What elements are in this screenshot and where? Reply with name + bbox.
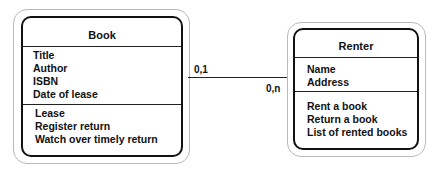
renter-class: Renter Name Address Rent a book Return a… — [293, 28, 419, 150]
renter-operations: Rent a book Return a book List of rented… — [307, 100, 407, 139]
association-line — [188, 77, 287, 78]
renter-attribute: Address — [307, 76, 349, 89]
book-operations: Lease Register return Watch over timely … — [35, 107, 158, 146]
renter-header-divider — [295, 57, 417, 58]
renter-operation: List of rented books — [307, 126, 407, 139]
renter-attributes: Name Address — [307, 63, 349, 89]
book-attribute: Date of lease — [33, 88, 98, 101]
book-class-name: Book — [23, 29, 181, 41]
book-class: Book Title Author ISBN Date of lease Lea… — [21, 16, 183, 157]
renter-operation: Return a book — [307, 113, 407, 126]
renter-attributes-divider — [295, 91, 417, 92]
renter-operation: Rent a book — [307, 100, 407, 113]
book-attribute: Title — [33, 49, 98, 62]
book-multiplicity: 0,1 — [194, 64, 208, 75]
book-attribute: ISBN — [33, 75, 98, 88]
renter-multiplicity: 0,n — [266, 83, 280, 94]
book-operation: Register return — [35, 120, 158, 133]
book-operation: Watch over timely return — [35, 133, 158, 146]
renter-class-name: Renter — [295, 40, 417, 52]
book-attributes: Title Author ISBN Date of lease — [33, 49, 98, 101]
renter-attribute: Name — [307, 63, 349, 76]
book-operation: Lease — [35, 107, 158, 120]
book-attributes-divider — [23, 104, 181, 105]
book-attribute: Author — [33, 62, 98, 75]
book-header-divider — [23, 46, 181, 47]
